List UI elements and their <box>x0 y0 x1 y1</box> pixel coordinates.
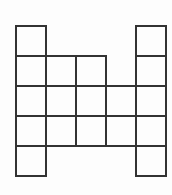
grid-cell <box>16 86 46 116</box>
grid-cell <box>16 56 46 86</box>
grid-cell <box>76 86 106 116</box>
grid-cell <box>76 56 106 86</box>
grid-cell <box>106 116 136 146</box>
grid-cell-group <box>16 26 166 176</box>
grid-cell <box>46 86 76 116</box>
polyomino-grid <box>0 0 172 195</box>
grid-cell <box>76 116 106 146</box>
grid-cell <box>16 146 46 176</box>
grid-cell <box>136 116 166 146</box>
figure-canvas <box>0 0 172 195</box>
grid-cell <box>46 56 76 86</box>
grid-cell <box>106 86 136 116</box>
grid-cell <box>16 116 46 146</box>
grid-cell <box>136 86 166 116</box>
grid-cell <box>46 116 76 146</box>
grid-cell <box>136 56 166 86</box>
grid-cell <box>136 26 166 56</box>
grid-cell <box>16 26 46 56</box>
grid-cell <box>136 146 166 176</box>
